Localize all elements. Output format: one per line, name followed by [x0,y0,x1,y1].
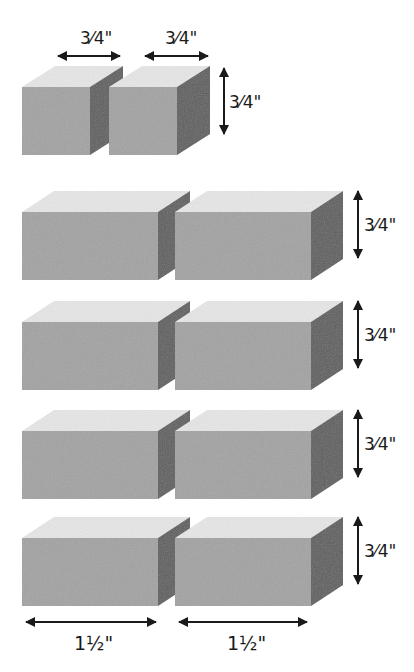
cube-width-label: 3⁄4" [80,28,112,48]
block-width-label: 1½" [74,632,113,654]
block-row-3: 3⁄4" [22,410,396,499]
cube-right [109,66,210,155]
block-row-1: 3⁄4" [22,191,396,280]
cube-left [22,66,123,155]
block-diagram: 3⁄4" 3⁄4" 3⁄4" 3⁄4" 3⁄4" [0,0,414,672]
block-row-4: 3⁄4" [22,517,396,606]
cube-height-label: 3⁄4" [229,92,261,112]
block-height-label: 3⁄4" [364,215,396,235]
block-height-label: 3⁄4" [364,541,396,561]
block-width-label: 1½" [227,632,266,654]
block-height-label: 3⁄4" [364,325,396,345]
cube-width-label: 3⁄4" [165,28,197,48]
cube-row [22,66,210,155]
block-row-2: 3⁄4" [22,301,396,390]
block-height-label: 3⁄4" [364,434,396,454]
bottom-dimensions: 1½" 1½" [26,622,307,654]
